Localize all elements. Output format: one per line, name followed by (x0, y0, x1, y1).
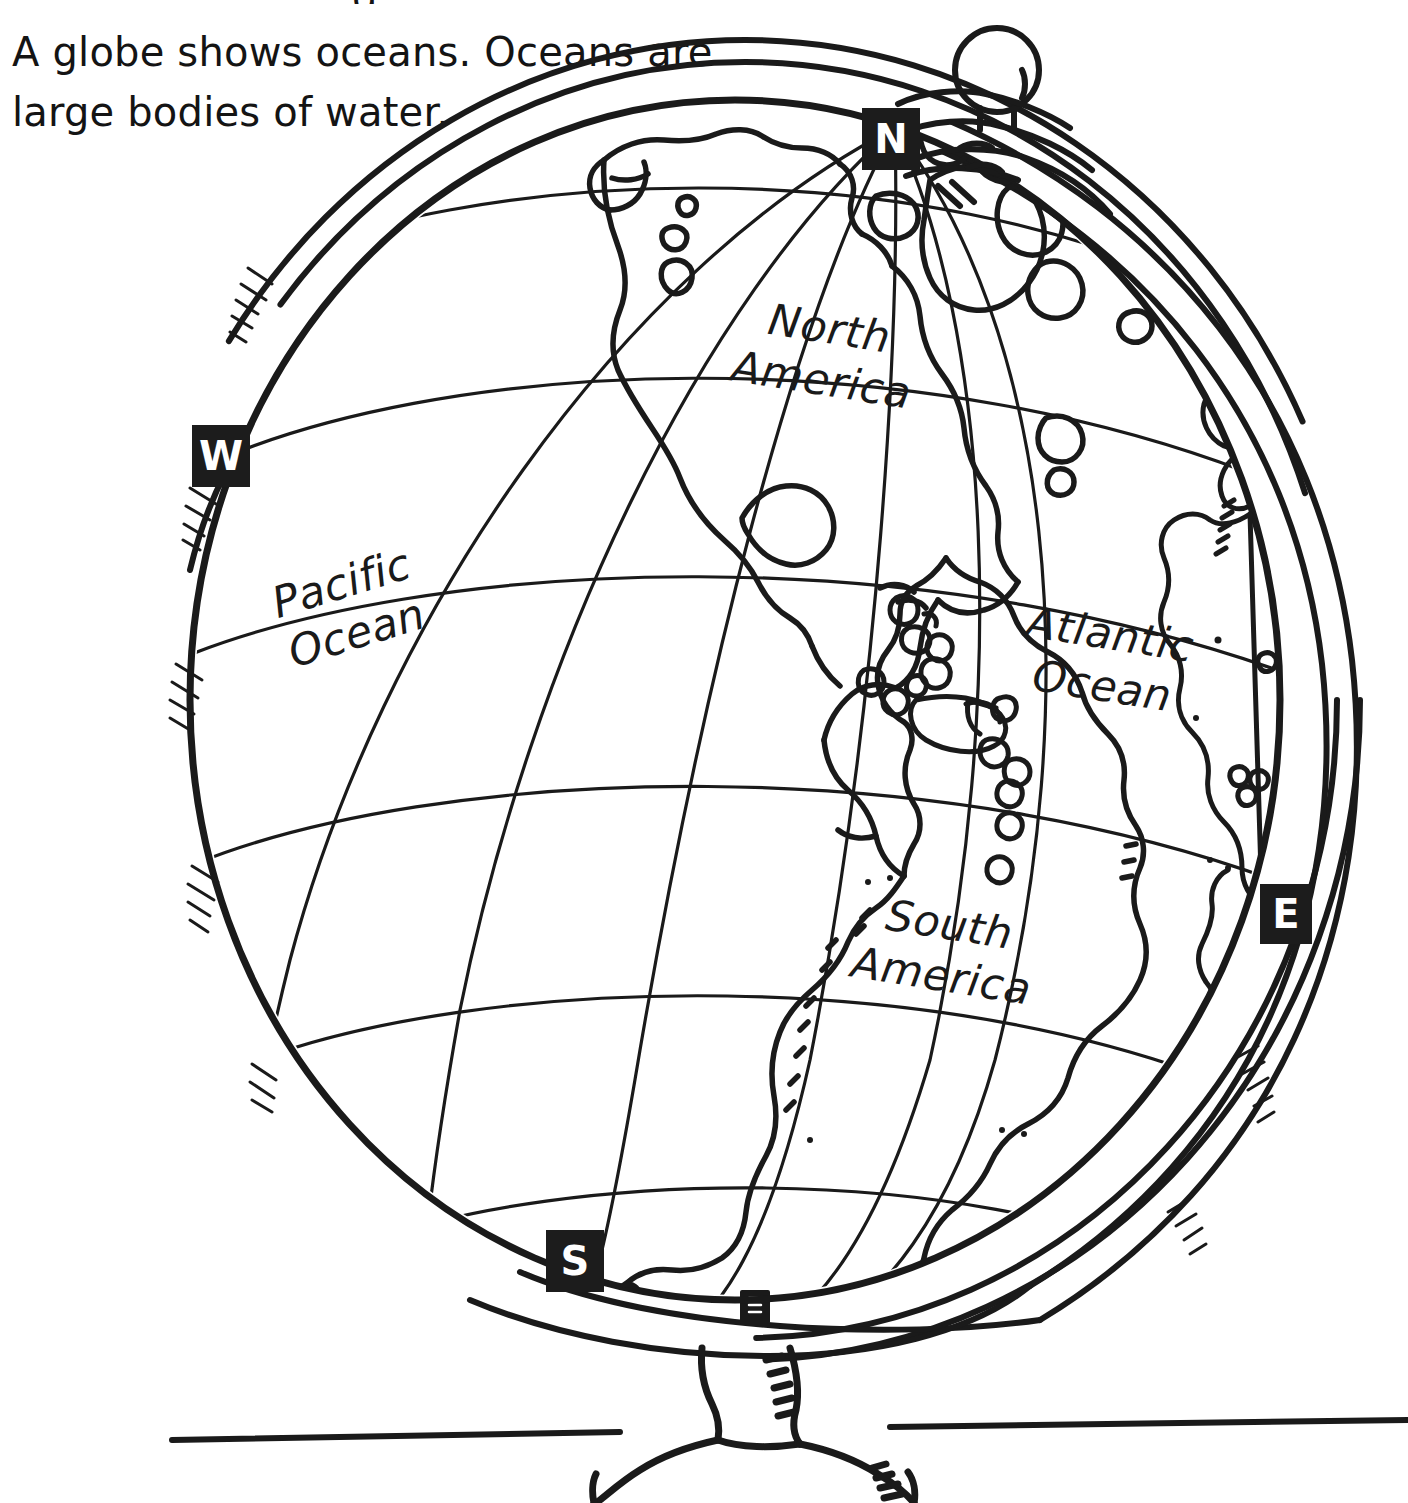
edge-hatching-left (170, 268, 276, 1112)
compass-marker-north: N (862, 108, 920, 170)
worksheet-page: g A globe shows oceans. Oceans are large… (0, 0, 1408, 1503)
globe-stand (593, 1348, 915, 1503)
compass-marker-east: E (1260, 884, 1312, 944)
horizon-line (172, 1420, 1408, 1440)
compass-marker-west: W (192, 425, 250, 487)
ring-clip (740, 1290, 770, 1324)
compass-marker-south: S (546, 1230, 604, 1292)
caribbean-islands (858, 596, 1030, 883)
globe-illustration (0, 0, 1408, 1503)
